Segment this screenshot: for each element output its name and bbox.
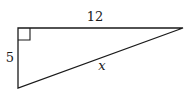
right-angle-marker bbox=[18, 28, 30, 40]
hypotenuse-label: x bbox=[98, 58, 106, 73]
triangle-diagram: 12 5 x bbox=[0, 0, 192, 95]
top-side-label: 12 bbox=[87, 9, 104, 24]
left-side-label: 5 bbox=[6, 50, 14, 65]
